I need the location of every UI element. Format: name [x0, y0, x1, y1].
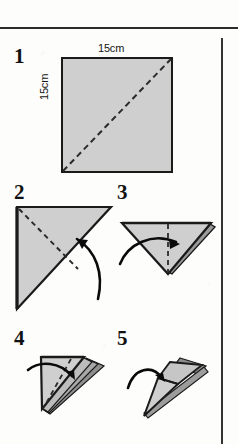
fold-arrow-path — [77, 239, 100, 299]
dimension-label-left: 15cm — [38, 74, 50, 100]
paper-triangle — [122, 223, 211, 274]
figure-step-3-inverted-triangle — [118, 218, 218, 284]
figure-step-1-square — [58, 54, 176, 176]
step-number-5: 5 — [117, 328, 128, 349]
step-number-4: 4 — [14, 328, 25, 349]
step-number-1: 1 — [14, 46, 25, 67]
figure-step-2-triangle — [12, 203, 116, 315]
step-number-2: 2 — [14, 182, 25, 203]
right-vertical-rule — [221, 38, 223, 444]
figure-step-4-layered-flap — [28, 352, 112, 422]
paper-triangle — [17, 207, 111, 309]
step-number-3: 3 — [117, 182, 128, 203]
top-horizontal-rule — [0, 27, 238, 29]
dimension-label-top: 15cm — [98, 42, 124, 54]
figure-step-5-finished-form — [128, 352, 214, 424]
origami-instruction-page: 1 15cm 15cm 2 3 4 — [0, 0, 238, 444]
